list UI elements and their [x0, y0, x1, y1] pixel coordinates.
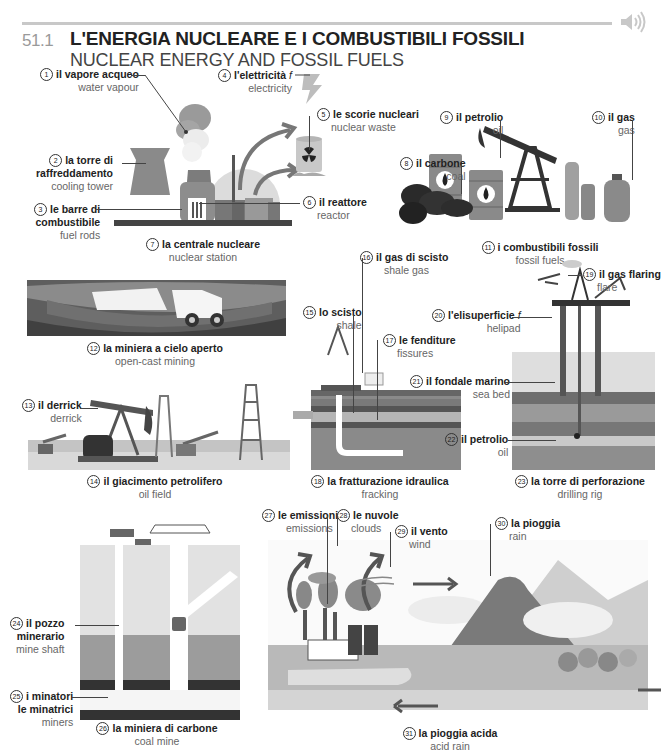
leader-line — [512, 317, 552, 318]
acid-rain-illustration — [268, 540, 648, 710]
label-helipad: 20l'elisuperficie f helipad — [432, 309, 521, 335]
label-fuel-rods: 3le barre di combustibile fuel rods — [34, 203, 100, 242]
label-oil-deposit: 22il petrolio oil — [445, 433, 508, 459]
label-drilling-rig: 23la torre di perforazione drilling rig — [505, 475, 655, 501]
label-nuclear-waste: 5le scorie nucleari nuclear waste — [317, 108, 419, 134]
label-oil: 9il petrolio oil — [440, 111, 503, 137]
label-sea-bed: 21il fondale marino sea bed — [410, 375, 510, 401]
label-miners: 25i minatori le minatrici miners — [10, 690, 73, 729]
leader-line — [327, 516, 328, 604]
label-oil-field: 14il giacimento petrolifero oil field — [75, 475, 235, 501]
label-gas: 10il gas gas — [592, 111, 635, 137]
label-gas-flaring: 19il gas flaring flare — [583, 268, 661, 294]
leader-line — [72, 697, 108, 698]
label-shale-gas: 16il gas di scisto shale gas — [360, 251, 448, 277]
label-coal-mine: 26la miniera di carbone coal mine — [82, 722, 232, 748]
label-reactor: 6il reattore reactor — [303, 196, 367, 222]
label-open-cast-mining: 12la miniera a cielo aperto open-cast mi… — [80, 342, 230, 368]
leader-line — [490, 524, 491, 576]
leader-line — [461, 164, 462, 194]
label-derrick: 13il derrick derrick — [22, 399, 82, 425]
label-rain: 30la pioggia rain — [495, 517, 560, 543]
leader-line — [390, 532, 391, 567]
label-fracking: 18la fratturazione idraulica fracking — [300, 475, 460, 501]
leader-line — [353, 315, 354, 413]
label-coal: 8il carbone coal — [400, 157, 466, 183]
leader-line — [96, 209, 182, 210]
label-wind: 29il vento wind — [395, 525, 448, 551]
open-cast-mining-illustration — [27, 280, 286, 336]
label-fossil-fuels: 11i combustibili fossili fossil fuels — [475, 241, 605, 267]
leader-dot — [184, 130, 188, 134]
leader-line — [568, 275, 582, 276]
label-fissures: 17le fenditure fissures — [383, 334, 456, 360]
leader-line — [122, 163, 146, 164]
label-cooling-tower: 2la torre di raffreddamento cooling towe… — [36, 154, 113, 193]
leader-line — [362, 258, 363, 373]
leader-line — [80, 408, 98, 409]
label-mine-shaft: 24il pozzo minerario mine shaft — [10, 617, 65, 656]
leader-line — [632, 120, 633, 180]
fracking-illustration — [293, 345, 469, 470]
leader-line — [75, 625, 119, 626]
coal-mine-illustration — [80, 525, 240, 720]
leader-line — [337, 516, 338, 546]
leader-line — [500, 120, 501, 158]
leader-line — [377, 340, 378, 420]
leader-line — [199, 203, 300, 204]
label-acid-rain: 31la pioggia acida acid rain — [380, 727, 520, 752]
label-electricity: 4l'elettricità f electricity — [218, 69, 292, 95]
leader-line — [508, 440, 556, 441]
leader-line — [505, 382, 555, 383]
label-nuclear-station: 7la centrale nucleare nuclear station — [128, 238, 278, 264]
leader-line — [309, 116, 310, 150]
oil-field-illustration — [28, 380, 290, 470]
